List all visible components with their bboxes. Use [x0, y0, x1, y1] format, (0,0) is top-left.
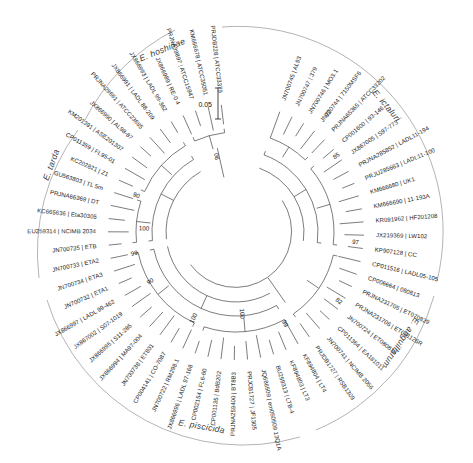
deep-branch: [217, 148, 224, 177]
clade-stem: [209, 136, 213, 150]
clade-edge: [333, 255, 337, 256]
tip-branch: [109, 244, 122, 245]
tip-branch: [111, 205, 135, 210]
clade-edge: [293, 314, 295, 317]
tip-branch: [301, 131, 315, 149]
tip-branch: [300, 324, 309, 337]
tip-branch: [119, 180, 133, 186]
tip-label: KR091962 | HF201208: [375, 213, 438, 224]
clade-edge: [305, 157, 308, 160]
bootstrap-value: 100: [239, 308, 247, 319]
tip-branch: [132, 293, 151, 306]
clade-stem: [161, 165, 171, 174]
clade-edge: [277, 306, 279, 310]
tip-branch: [272, 112, 280, 135]
tip-branch: [346, 209, 362, 212]
clade-stem: [294, 189, 306, 196]
tip-label: PRJNA66369 | DT: [50, 189, 100, 205]
clade-edge: [264, 151, 265, 155]
tip-branch: [125, 168, 145, 179]
clade-stem: [283, 147, 289, 157]
tip-branch: [296, 123, 304, 136]
scale-bar-label: 0.05: [198, 101, 212, 108]
clade-edge: [141, 190, 145, 192]
tip-branch: [111, 255, 128, 259]
tip-branch: [339, 196, 359, 202]
tip-branch: [208, 340, 212, 357]
tip-branch: [171, 328, 179, 342]
tip-branch: [140, 307, 151, 317]
bootstrap-value: 90: [132, 190, 141, 199]
backbone-arc: [259, 168, 304, 241]
tip-branch: [348, 247, 363, 249]
clade-edge: [224, 129, 225, 133]
tip-branch: [312, 140, 325, 153]
clade-edge: [150, 249, 154, 250]
tip-branch: [183, 116, 192, 135]
clade-edge: [137, 200, 141, 201]
bootstrap-value: 100: [139, 224, 150, 231]
tip-label: PRJNA259400 | BT8B3: [230, 371, 237, 436]
clade-edge: [183, 142, 185, 145]
tip-label: JN700735 | ETB: [52, 243, 97, 254]
tip-label: JQ686509 | em050509 13Q1A: [261, 369, 283, 451]
tip-label: CP011364 | EA181011: [336, 325, 385, 372]
clade-stem: [317, 204, 330, 208]
clade-stem: [201, 296, 207, 309]
tip-label: KM666690 | 11-193A: [373, 193, 430, 209]
tip-branch: [339, 281, 352, 287]
tip-branch: [320, 311, 330, 320]
bootstrap-value: 100: [188, 311, 199, 324]
species-label-e-piscicida: E. piscicida: [178, 417, 226, 435]
tip-branch: [342, 183, 354, 188]
bootstrap-value: 99: [281, 319, 291, 329]
tip-branch: [256, 335, 260, 358]
clade-edge: [311, 166, 314, 169]
tip-branches: [108, 105, 364, 360]
tip-branch: [269, 340, 273, 355]
tip-branch: [339, 268, 357, 274]
tip-label: JN700733 | ETA2: [52, 257, 100, 273]
clade-stem: [307, 280, 319, 288]
tip-branch: [160, 129, 170, 143]
tip-label: KM666680 | UK1: [369, 176, 416, 195]
tip-branch: [208, 107, 213, 131]
tip-branch: [246, 341, 248, 359]
tip-branch: [279, 332, 287, 350]
tip-branch: [195, 341, 199, 353]
clade-edge: [270, 134, 271, 138]
bootstrap-value: 85: [331, 150, 341, 160]
tip-label: JX866994 | MA97-004: [98, 333, 144, 382]
root-arc: [191, 201, 292, 288]
tip-branch: [183, 330, 192, 349]
tip-branch: [338, 256, 360, 261]
tip-branch: [125, 286, 141, 295]
tree-canvas: JN700745 | AL93JN700747 | 379JN700746 | …: [0, 0, 473, 463]
tip-branch: [286, 323, 298, 344]
clade-stem: [161, 194, 174, 200]
tip-branch: [344, 235, 364, 236]
tip-label: GU563803 | TL 5m: [53, 170, 104, 192]
tip-label: PRJDB228 | ATCC33379: [210, 25, 224, 94]
clade-edge: [203, 327, 204, 331]
species-label-e-ictaluri: E. ictaluri: [370, 88, 403, 125]
tip-branch: [114, 264, 135, 271]
tip-label: JX219369 | LW102: [376, 232, 428, 239]
tip-label: BU259313 | LTB-4: [275, 365, 296, 415]
tip-label: CP001135 | BdB202: [210, 370, 222, 426]
tip-branch: [171, 122, 178, 133]
tip-branch: [114, 193, 133, 199]
tip-branch: [306, 313, 320, 329]
tip-branch: [150, 137, 165, 153]
backbone-arc: [166, 172, 201, 240]
bootstrap-label-group: 928597829910010090991009090: [130, 108, 360, 329]
tip-label: PRJCB1727 | JF1305: [246, 371, 257, 431]
tip-label: PRJDB1727 | RSB1309: [314, 345, 356, 402]
bootstrap-value: 99: [130, 249, 139, 257]
tip-branch: [150, 312, 163, 327]
clade-edge: [317, 243, 321, 244]
clade-stem: [137, 222, 151, 224]
tip-branch: [327, 287, 346, 298]
tip-label: EU259314 | NCIMB 2034: [27, 228, 96, 234]
backbone-arc: [168, 246, 270, 302]
